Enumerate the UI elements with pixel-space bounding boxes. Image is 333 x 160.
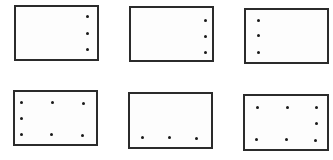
dot (314, 139, 317, 142)
rectangle-4 (13, 90, 98, 146)
dot (256, 106, 259, 109)
dot (168, 136, 171, 139)
dot (20, 133, 23, 136)
dot (86, 32, 89, 35)
rectangle-2 (129, 6, 214, 62)
dot (257, 51, 260, 54)
dot (257, 19, 260, 22)
dot (286, 106, 289, 109)
dot (82, 102, 85, 105)
dot (315, 122, 318, 125)
dot (20, 117, 23, 120)
dot (204, 19, 207, 22)
dot (86, 15, 89, 18)
dot (51, 101, 54, 104)
dot (285, 138, 288, 141)
dot (20, 101, 23, 104)
dot (141, 136, 144, 139)
dot (50, 133, 53, 136)
dot (257, 34, 260, 37)
dot (81, 134, 84, 137)
dot (255, 138, 258, 141)
dot (315, 106, 318, 109)
dot (204, 51, 207, 54)
dot (204, 35, 207, 38)
rectangle-5 (128, 92, 213, 149)
dot (195, 137, 198, 140)
dot (86, 48, 89, 51)
